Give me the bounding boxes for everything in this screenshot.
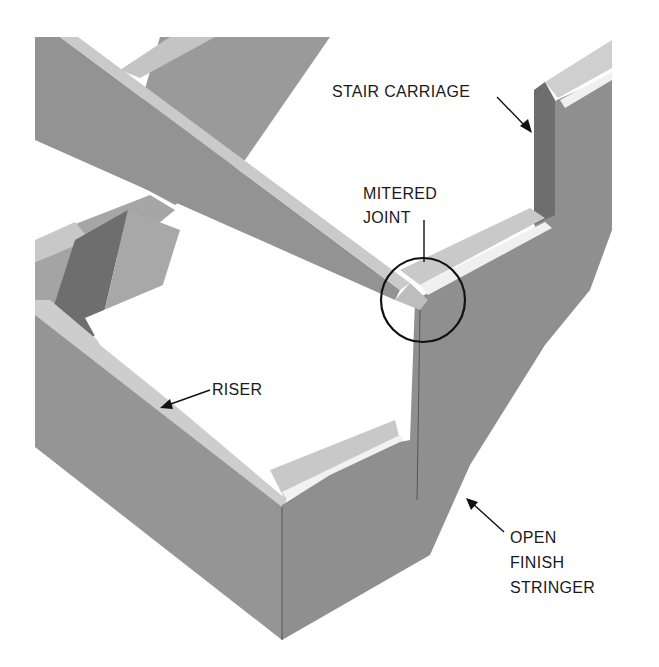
label-open-finish-stringer-line3: STRINGER (510, 578, 595, 598)
open-finish-stringer (282, 40, 612, 640)
label-stair-carriage: STAIR CARRIAGE (332, 82, 470, 102)
label-riser: RISER (212, 380, 262, 400)
label-open-finish-stringer-line1: OPEN (510, 528, 557, 548)
label-mitered-joint-line1: MITERED (363, 184, 437, 204)
label-open-finish-stringer-line2: FINISH (510, 553, 564, 573)
label-mitered-joint-line2: JOINT (363, 208, 411, 228)
